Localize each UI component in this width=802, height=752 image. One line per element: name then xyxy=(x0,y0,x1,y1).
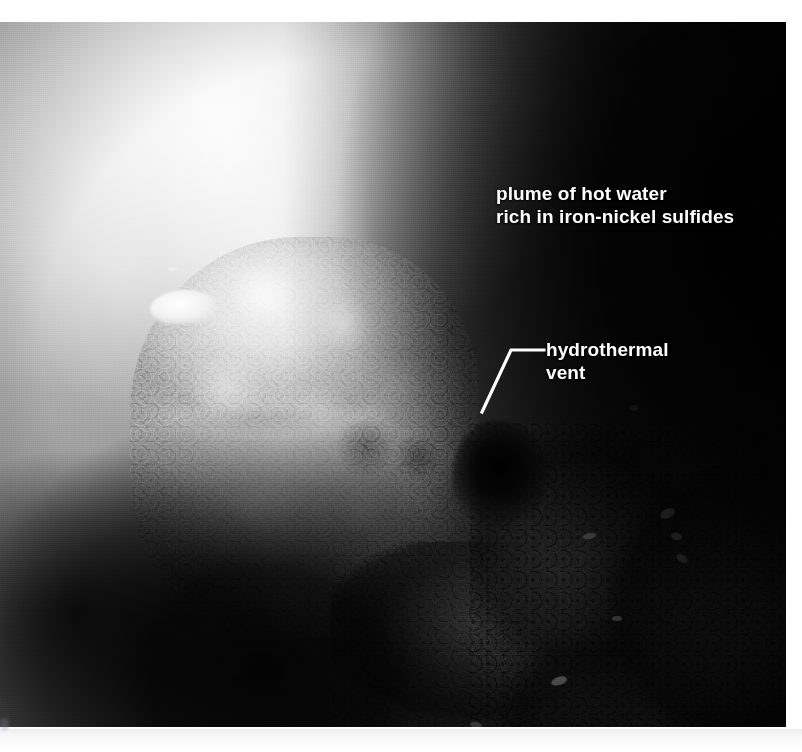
callout-vent-line-2: vent xyxy=(546,361,669,384)
figure-root: plume of hot water rich in iron-nickel s… xyxy=(0,0,802,752)
callout-plume-of-hot-water: plume of hot water rich in iron-nickel s… xyxy=(496,182,734,228)
annotation-overlay: plume of hot water rich in iron-nickel s… xyxy=(0,0,802,752)
callout-hydrothermal-vent: hydrothermal vent xyxy=(546,338,669,384)
hydrothermal-vent-leader-line xyxy=(482,350,544,412)
callout-plume-line-1: plume of hot water xyxy=(496,182,734,205)
callout-plume-line-2: rich in iron-nickel sulfides xyxy=(496,205,734,228)
leader-line-svg xyxy=(0,0,802,752)
callout-vent-line-1: hydrothermal xyxy=(546,338,669,361)
